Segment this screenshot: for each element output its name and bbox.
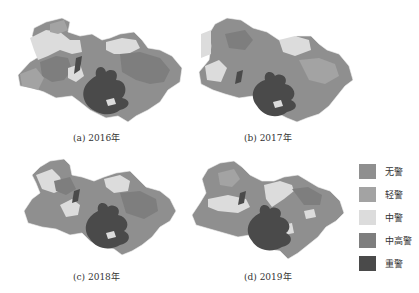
legend-item-light: 轻警 [359, 183, 412, 206]
legend-item-severe: 重警 [359, 252, 412, 275]
legend-item-none: 无警 [359, 160, 412, 183]
legend-item-medium: 中警 [359, 206, 412, 229]
legend-swatch [359, 210, 376, 225]
legend-label: 无警 [385, 165, 403, 178]
caption-2018: (c) 2018年 [73, 270, 120, 283]
legend: 无警 轻警 中警 中高警 重警 [359, 160, 412, 275]
caption-2017: (b) 2017年 [244, 131, 292, 144]
legend-swatch [359, 187, 376, 202]
caption-2019: (d) 2019年 [244, 270, 292, 283]
legend-swatch [359, 233, 376, 248]
map-panel-2018 [20, 155, 185, 260]
map-panel-2019 [188, 155, 353, 260]
map-panel-2016 [10, 10, 195, 125]
caption-2016: (a) 2016年 [73, 131, 120, 144]
legend-swatch [359, 256, 376, 271]
legend-label: 中高警 [385, 234, 412, 247]
legend-item-medium-high: 中高警 [359, 229, 412, 252]
choropleth-map-2016 [10, 10, 195, 125]
choropleth-map-2019 [188, 155, 353, 260]
legend-label: 轻警 [385, 188, 403, 201]
map-panel-2017 [195, 10, 360, 125]
legend-label: 中警 [385, 211, 403, 224]
choropleth-map-2018 [20, 155, 185, 260]
legend-label: 重警 [385, 257, 403, 270]
choropleth-map-2017 [195, 10, 360, 125]
legend-swatch [359, 164, 376, 179]
